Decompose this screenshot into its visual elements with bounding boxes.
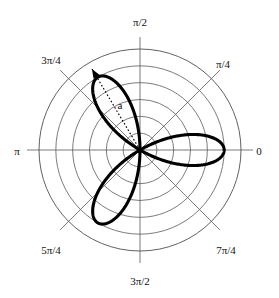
theta-tick-label-theta-7pi-4: 7π/4 [216,245,236,256]
theta-tick-label-theta-pi-2: π/2 [133,17,147,28]
polar-plot-figure: 0π/4π/23π/4π5π/43π/27π/4 a [0,0,279,298]
theta-tick-label-theta-3pi-4: 3π/4 [41,55,61,66]
theta-tick-label-theta-pi-4: π/4 [216,59,230,70]
amplitude-label: a [118,100,123,111]
theta-tick-label-theta-pi: π [14,146,20,157]
theta-tick-label-theta-5pi-4: 5π/4 [41,245,61,256]
theta-tick-label-theta-3pi-2: 3π/2 [130,276,150,287]
theta-tick-label-theta-0: 0 [256,146,262,157]
